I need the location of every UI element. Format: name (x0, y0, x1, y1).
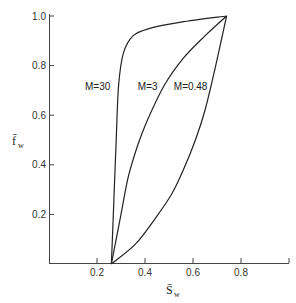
curve-label: M=30 (85, 81, 111, 92)
curve-label: M=0.48 (174, 81, 208, 92)
curve-m-0-48 (111, 16, 226, 264)
y-tick-label: 0.2 (32, 209, 46, 220)
y-axis-label: f̄ w (12, 134, 24, 150)
curve-m-30 (111, 16, 226, 264)
curve-labels: M=30M=3M=0.48 (85, 81, 208, 92)
y-tick-label: 0.4 (32, 159, 46, 170)
y-axis-label-sub: w (18, 141, 24, 150)
x-axis-label-main: S̄ (166, 283, 173, 297)
y-axis-label-main: f̄ (12, 134, 17, 148)
axes (49, 14, 289, 264)
x-ticks: 0.20.40.60.8 (90, 258, 289, 278)
x-axis-label-sub: w (174, 290, 180, 299)
x-tick-label: 0.4 (138, 267, 152, 278)
y-ticks: 0.20.40.60.81.0 (32, 11, 54, 220)
x-axis-label: S̄ w (166, 283, 180, 299)
curve-label: M=3 (138, 81, 158, 92)
curves (111, 16, 226, 264)
x-tick-label: 0.6 (186, 267, 200, 278)
y-tick-label: 1.0 (32, 11, 46, 22)
y-tick-label: 0.8 (32, 60, 46, 71)
y-tick-label: 0.6 (32, 110, 46, 121)
fractional-flow-chart: 0.20.40.60.8 0.20.40.60.81.0 M=30M=3M=0.… (0, 0, 296, 303)
curve-m-3 (111, 16, 226, 264)
x-tick-label: 0.2 (90, 267, 104, 278)
x-tick-label: 0.8 (234, 267, 248, 278)
